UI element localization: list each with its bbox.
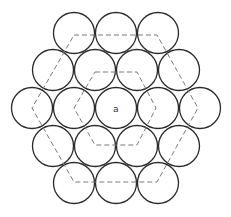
center-label: a (113, 104, 119, 114)
hex-packing-diagram: a (0, 0, 231, 217)
packed-circle (96, 13, 137, 54)
packed-circle (54, 163, 95, 204)
packed-circle (75, 50, 116, 91)
packed-circle (33, 50, 74, 91)
packed-circle (75, 126, 116, 167)
packed-circle (180, 88, 221, 129)
packed-circle (33, 126, 74, 167)
packed-circle (159, 126, 200, 167)
diagram-canvas: a (0, 0, 231, 217)
packed-circle (138, 13, 179, 54)
packed-circle (96, 163, 137, 204)
packed-circle (117, 50, 158, 91)
packed-circle (117, 126, 158, 167)
packed-circle (159, 50, 200, 91)
packed-circle (138, 88, 179, 129)
packed-circle (138, 163, 179, 204)
packed-circle (54, 13, 95, 54)
